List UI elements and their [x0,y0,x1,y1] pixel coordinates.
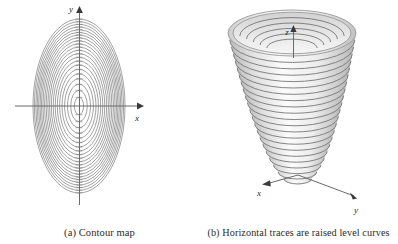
z-axis-3d-label: z [284,27,289,37]
y-axis-3d-arrowhead [350,193,357,200]
paraboloid-surface-group [228,10,356,186]
caption-panel-b: (b) Horizontal traces are raised level c… [199,227,398,238]
x-axis-label: x [134,113,139,123]
figure-root: x y (a) Contour map [0,0,398,244]
paraboloid-svg: x y z [199,0,398,244]
x-axis-3d-arrowhead [262,180,271,186]
contour-map-svg: x y [0,0,199,244]
y-axis-label: y [68,4,73,14]
x-axis-arrowhead [137,103,144,110]
x-axis-3d-label: x [256,188,261,198]
y-axis-3d-line [298,175,354,196]
panel-contour-map: x y (a) Contour map [0,0,199,244]
y-axis-arrowhead [76,6,83,13]
panel-paraboloid-3d: x y z (b) Horizontal traces are raised l… [199,0,398,244]
caption-panel-a: (a) Contour map [0,227,199,238]
y-axis-3d-label: y [353,205,358,215]
